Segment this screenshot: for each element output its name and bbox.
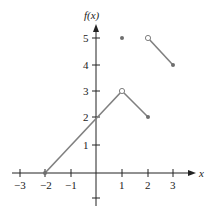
closed-point-icon [43,171,47,175]
y-tick-label: 4 [83,59,89,71]
series-segment-2 [119,88,150,119]
x-axis: x −3 −2 −1 1 2 3 [12,167,204,191]
x-tick-label: −2 [40,179,52,191]
x-axis-label: x [198,167,204,179]
y-axis-label: f(x) [84,9,100,22]
y-axis-arrow-icon [93,24,99,32]
x-tick-label: −1 [65,179,77,191]
y-tick-label: 1 [83,139,89,151]
y-tick-label: 3 [83,85,89,97]
x-tick-label: 1 [119,179,125,191]
y-axis: f(x) 5 4 3 2 1 [83,9,100,206]
series-segment-3 [145,35,175,67]
closed-point-icon [171,63,175,67]
open-point-icon [119,88,124,93]
x-axis-arrow-icon [188,170,196,176]
closed-point-icon [146,115,150,119]
function-graph: x −3 −2 −1 1 2 3 f(x) 5 4 3 2 1 [0,0,209,218]
series-isolated-point [120,36,124,40]
y-tick-label: 5 [83,32,89,44]
series-segment-1 [43,91,122,175]
closed-point-icon [120,36,124,40]
x-tick-label: 3 [170,179,176,191]
y-tick-label: 2 [83,111,89,123]
x-tick-label: 2 [145,179,151,191]
open-point-icon [145,35,150,40]
x-tick-label: −3 [14,179,26,191]
